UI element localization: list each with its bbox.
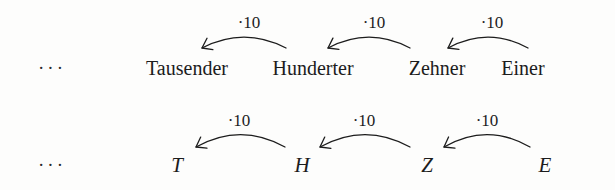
times-ten-arrow-curve	[328, 37, 410, 48]
row-leading-ellipsis: ···	[38, 154, 66, 176]
times-ten-label: ·10	[238, 14, 261, 31]
times-ten-arrow-curve	[196, 135, 285, 147]
times-ten-label: ·10	[363, 14, 386, 31]
times-ten-arrow-curve	[202, 37, 286, 48]
times-ten-arrow-curve	[444, 135, 530, 147]
place-value-node: H	[294, 155, 309, 175]
times-ten-arrow-curve	[320, 135, 410, 147]
times-ten-label: ·10	[353, 112, 376, 129]
place-value-node: T	[171, 155, 183, 175]
place-value-node: Z	[421, 155, 433, 175]
times-ten-label: ·10	[476, 112, 499, 129]
times-ten-label: ·10	[228, 112, 251, 129]
place-value-node: Einer	[501, 58, 544, 78]
place-value-diagram: ···TausenderHunderterZehnerEiner·10·10·1…	[0, 0, 615, 190]
place-value-node: Hunderter	[272, 58, 353, 78]
place-value-node: Tausender	[146, 58, 228, 78]
place-value-node: Zehner	[409, 58, 466, 78]
times-ten-label: ·10	[481, 14, 504, 31]
place-value-node: E	[539, 155, 552, 175]
times-ten-arrow-curve	[448, 37, 528, 48]
row-leading-ellipsis: ···	[38, 57, 66, 79]
